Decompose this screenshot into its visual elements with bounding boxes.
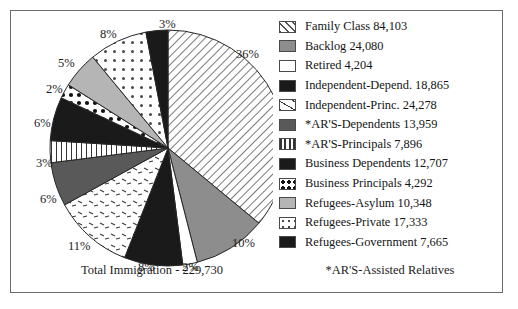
pie-percent-label: 8% (100, 27, 117, 42)
chart-frame: 3%8%5%2%6%3%6%11%8%2%10%36% Total Immigr… (10, 10, 503, 293)
pie-chart-svg (11, 11, 273, 294)
legend-item-label: Retired 4,204 (305, 59, 372, 72)
pie-percent-label: 11% (68, 239, 90, 254)
legend-item-label: Refugees-Private 17,333 (305, 216, 428, 229)
legend-item-label: Refugees-Asylum 10,348 (305, 197, 432, 210)
pie-percent-label: 6% (40, 192, 57, 207)
small-dots-swatch (279, 217, 296, 229)
pie-percent-label: 10% (232, 236, 255, 251)
legend-item[interactable]: Independent-Depend. 18,865 (279, 76, 501, 96)
black-swatch (279, 236, 296, 248)
pie-chart-area: 3%8%5%2%6%3%6%11%8%2%10%36% Total Immigr… (11, 11, 273, 294)
pie-percent-label: 3% (36, 156, 53, 171)
legend-item[interactable]: Backlog 24,080 (279, 37, 501, 57)
light-gray-swatch (279, 197, 296, 209)
sparse-dashes-swatch (279, 99, 296, 111)
legend-item[interactable]: Independent-Princ. 24,278 (279, 95, 501, 115)
legend-item-label: Backlog 24,080 (305, 40, 383, 53)
legend-item-label: Independent-Depend. 18,865 (305, 79, 449, 92)
black-swatch (279, 158, 296, 170)
legend-item-label: Refugees-Government 7,665 (305, 236, 448, 249)
legend-item[interactable]: Business Principals 4,292 (279, 174, 501, 194)
legend-footnote: *AR'S-Assisted Relatives (279, 263, 501, 278)
large-dots-swatch (279, 178, 296, 190)
chart-legend: Family Class 84,103Backlog 24,080Retired… (279, 17, 501, 252)
pie-percent-label: 3% (159, 17, 176, 32)
pie-percent-label: 6% (34, 116, 51, 131)
legend-item[interactable]: Refugees-Private 17,333 (279, 213, 501, 233)
legend-item[interactable]: Refugees-Asylum 10,348 (279, 193, 501, 213)
legend-item[interactable]: Refugees-Government 7,665 (279, 233, 501, 253)
medium-gray-swatch (279, 40, 296, 52)
vertical-lines-swatch (279, 138, 296, 150)
pie-percent-label: 36% (236, 47, 259, 62)
diagonal-stripes-swatch (279, 21, 296, 33)
legend-item[interactable]: Business Dependents 12,707 (279, 154, 501, 174)
legend-item-label: Business Principals 4,292 (305, 177, 433, 190)
legend-item-label: *AR'S-Principals 7,896 (305, 138, 422, 151)
total-immigration-label: Total Immigration - 229,730 (29, 263, 275, 278)
pie-slices (50, 30, 273, 266)
legend-item[interactable]: *AR'S-Dependents 13,959 (279, 115, 501, 135)
legend-item-label: Family Class 84,103 (305, 20, 407, 33)
legend-item[interactable]: *AR'S-Principals 7,896 (279, 135, 501, 155)
pie-percent-label: 5% (58, 56, 75, 71)
black-swatch (279, 80, 296, 92)
legend-item-label: *AR'S-Dependents 13,959 (305, 118, 437, 131)
dark-gray-swatch (279, 119, 296, 131)
white-swatch (279, 60, 296, 72)
pie-percent-label: 2% (46, 82, 63, 97)
legend-item-label: Independent-Princ. 24,278 (305, 99, 437, 112)
legend-item[interactable]: Family Class 84,103 (279, 17, 501, 37)
legend-item[interactable]: Retired 4,204 (279, 56, 501, 76)
legend-item-label: Business Dependents 12,707 (305, 157, 448, 170)
